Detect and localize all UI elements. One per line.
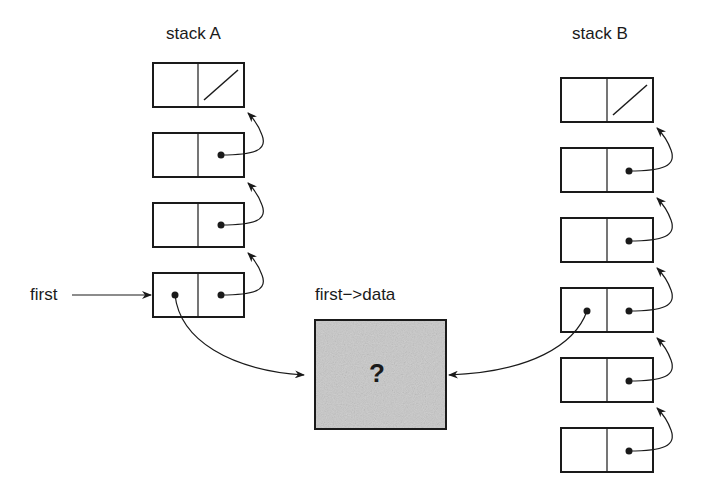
stack-b-node-4 <box>561 338 672 402</box>
stack-a <box>72 63 304 375</box>
diagram-canvas <box>0 0 706 498</box>
stack-a-node-3-first <box>153 253 304 375</box>
data-box-label: first−>data <box>315 285 395 305</box>
stack-b-node-5 <box>561 408 672 472</box>
null-slash-icon <box>204 70 238 100</box>
null-slash-icon <box>613 85 647 115</box>
stack-a-node-0 <box>153 63 244 107</box>
stack-a-title: stack A <box>166 24 221 44</box>
stack-b-node-1 <box>561 128 672 192</box>
unknown-data-symbol: ? <box>369 358 385 389</box>
stack-b-title: stack B <box>572 24 628 44</box>
stack-b <box>449 78 672 472</box>
stack-b-node-0 <box>561 78 653 122</box>
stack-a-node-1 <box>153 113 263 177</box>
stack-a-node-2 <box>153 183 263 247</box>
stack-b-node-2 <box>561 198 672 262</box>
first-pointer-label: first <box>30 285 57 305</box>
